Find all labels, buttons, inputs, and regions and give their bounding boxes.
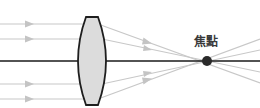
arrowhead-icon: [25, 96, 34, 103]
convex-lens: [78, 17, 106, 105]
arrowhead-icon: [25, 21, 34, 28]
focal-point-icon: [202, 56, 212, 66]
refracted-ray-1: [98, 24, 260, 83]
arrowhead-icon: [142, 38, 152, 45]
arrowhead-icon: [143, 45, 152, 51]
refracted-ray-4: [98, 39, 260, 99]
lens-diagram: [0, 0, 260, 108]
focal-point-label: 焦點: [194, 35, 218, 49]
arrowhead-icon: [25, 81, 34, 88]
arrowhead-icon: [142, 78, 152, 85]
arrowhead-icon: [25, 36, 34, 43]
